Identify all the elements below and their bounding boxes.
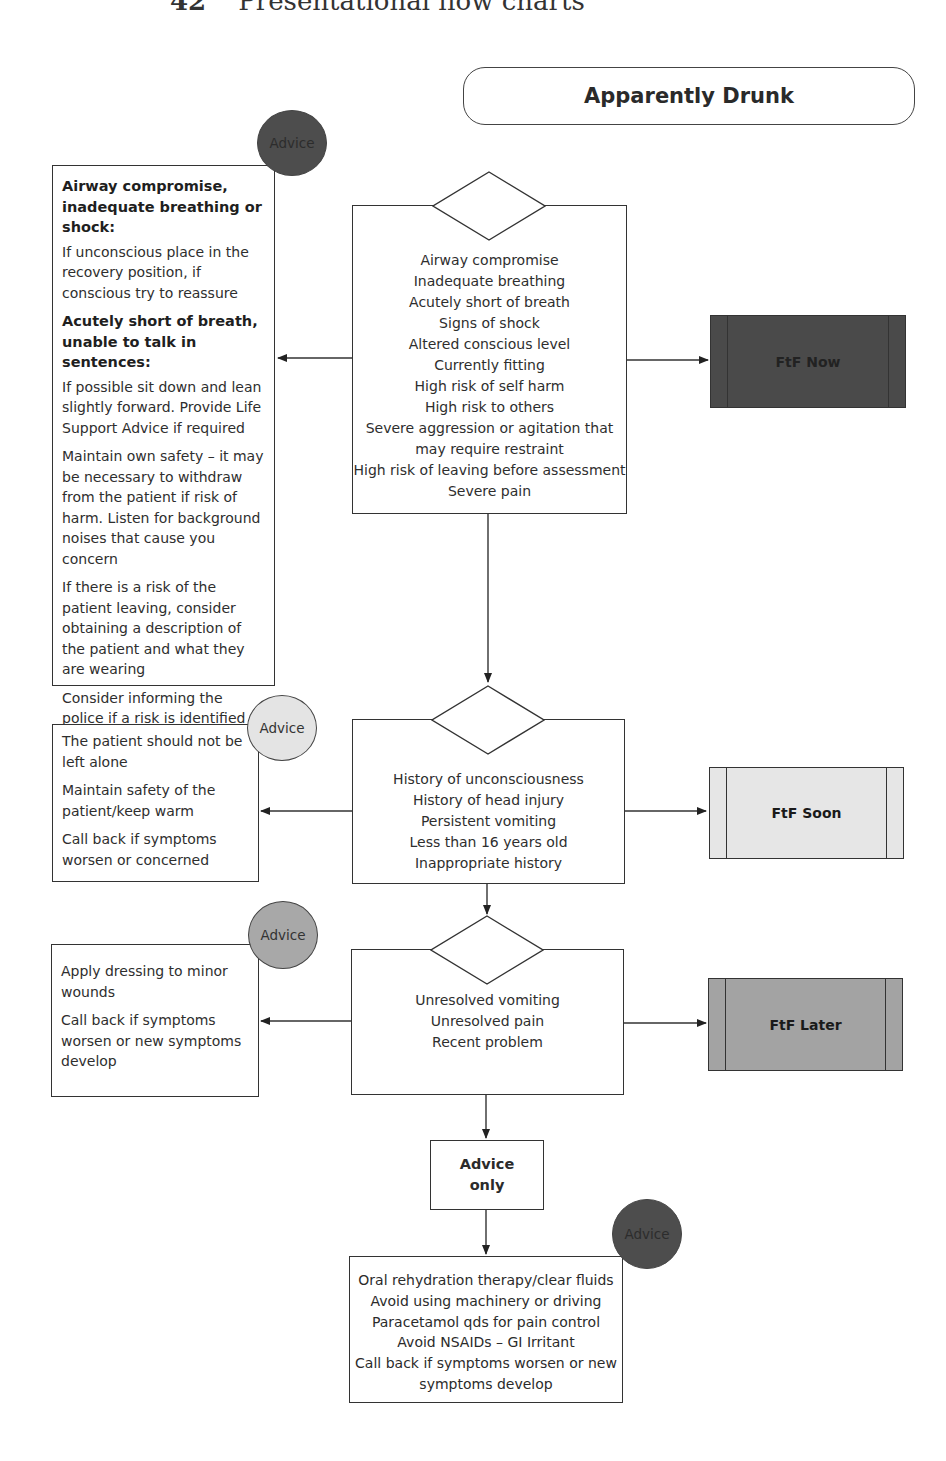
advice-text: Maintain own safety – it may be necessar…	[62, 446, 265, 569]
divider	[726, 768, 727, 858]
advice-item: Paracetamol qds for pain control	[350, 1312, 622, 1333]
disposition-label: FtF Soon	[772, 805, 842, 821]
advice-text: Call back if symptoms worsen or new symp…	[61, 1010, 249, 1072]
advice-badge-amber: Advice	[247, 695, 317, 761]
advice-item: Oral rehydration therapy/clear fluids	[350, 1270, 622, 1291]
advice-text: Call back if symptoms worsen or concerne…	[62, 829, 249, 870]
advice-text: If there is a risk of the patient leavin…	[62, 577, 265, 680]
criterion: High risk of self harm	[353, 376, 626, 397]
decision-diamond-green	[430, 915, 544, 985]
divider	[725, 979, 726, 1070]
criterion: Recent problem	[352, 1032, 623, 1053]
criteria-list-red: Airway compromise Inadequate breathing A…	[353, 250, 626, 502]
advice-text: The patient should not be left alone	[62, 731, 249, 772]
advice-box-red: Airway compromise, inadequate breathing …	[52, 165, 275, 686]
criterion: Airway compromise	[353, 250, 626, 271]
advice-item: symptoms develop	[350, 1374, 622, 1395]
advice-item: Call back if symptoms worsen or new	[350, 1353, 622, 1374]
criterion: Acutely short of breath	[353, 292, 626, 313]
criterion: Currently fitting	[353, 355, 626, 376]
advice-text: Apply dressing to minor wounds	[61, 961, 249, 1002]
decision-diamond-amber	[431, 685, 545, 755]
advice-badge-label: Advice	[624, 1226, 669, 1242]
advice-badge-red: Advice	[257, 110, 327, 176]
criterion: Unresolved pain	[352, 1011, 623, 1032]
decision-diamond-red	[432, 171, 546, 241]
advice-text: Consider informing the police if a risk …	[62, 688, 265, 729]
advice-badge-label: Advice	[259, 720, 304, 736]
criterion: High risk to others	[353, 397, 626, 418]
criterion: may require restraint	[353, 439, 626, 460]
divider	[885, 979, 886, 1070]
advice-item: Avoid using machinery or driving	[350, 1291, 622, 1312]
advice-badge-label: Advice	[260, 927, 305, 943]
disposition-label: FtF Later	[769, 1017, 841, 1033]
criteria-list-green: Unresolved vomiting Unresolved pain Rece…	[352, 990, 623, 1053]
criterion: Unresolved vomiting	[352, 990, 623, 1011]
advice-text: If possible sit down and lean slightly f…	[62, 377, 265, 439]
criterion: Persistent vomiting	[353, 811, 624, 832]
criterion: Signs of shock	[353, 313, 626, 334]
advice-box-green: Apply dressing to minor wounds Call back…	[51, 944, 259, 1097]
divider	[727, 316, 728, 407]
advice-box-amber: The patient should not be left alone Mai…	[52, 724, 259, 882]
advice-badge-green: Advice	[248, 901, 318, 969]
disposition-ftf-now: FtF Now	[710, 315, 906, 408]
advice-item: Avoid NSAIDs – GI Irritant	[350, 1332, 622, 1353]
criterion: History of head injury	[353, 790, 624, 811]
disposition-label: FtF Now	[776, 354, 841, 370]
criteria-box-red: Airway compromise Inadequate breathing A…	[352, 205, 627, 514]
advice-heading: Airway compromise, inadequate breathing …	[62, 176, 265, 238]
criterion: History of unconsciousness	[353, 769, 624, 790]
criterion: Severe pain	[353, 481, 626, 502]
criterion: Severe aggression or agitation that	[353, 418, 626, 439]
criteria-list-amber: History of unconsciousness History of he…	[353, 769, 624, 874]
divider	[886, 768, 887, 858]
advice-text: If unconscious place in the recovery pos…	[62, 242, 265, 304]
advice-only-label: Advice	[460, 1154, 514, 1175]
disposition-ftf-soon: FtF Soon	[709, 767, 904, 859]
criterion: Less than 16 years old	[353, 832, 624, 853]
divider	[888, 316, 889, 407]
criterion: Altered conscious level	[353, 334, 626, 355]
criterion: Inappropriate history	[353, 853, 624, 874]
advice-only-box: Advice only	[430, 1140, 544, 1210]
advice-only-label: only	[470, 1175, 505, 1196]
advice-badge-label: Advice	[269, 135, 314, 151]
advice-heading: Acutely short of breath, unable to talk …	[62, 311, 265, 373]
criterion: High risk of leaving before assessment	[353, 460, 626, 481]
advice-text: Maintain safety of the patient/keep warm	[62, 780, 249, 821]
advice-only-list: Oral rehydration therapy/clear fluids Av…	[349, 1256, 623, 1403]
advice-badge-advice-only: Advice	[612, 1199, 682, 1269]
criterion: Inadequate breathing	[353, 271, 626, 292]
disposition-ftf-later: FtF Later	[708, 978, 903, 1071]
